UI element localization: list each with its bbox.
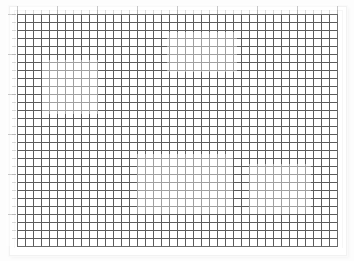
grid-highlight-region bbox=[167, 32, 237, 72]
horizontal-ruler-major-ticks bbox=[17, 2, 338, 14]
vertical-ruler-major-ticks bbox=[4, 14, 16, 246]
sheet-bottom-margin bbox=[10, 248, 344, 255]
grid-highlight-region bbox=[42, 60, 98, 114]
grid-highlight-region bbox=[249, 164, 311, 214]
grid-highlight-region bbox=[137, 154, 233, 214]
grid-paper-app bbox=[0, 0, 354, 261]
grid-canvas[interactable] bbox=[17, 14, 338, 247]
